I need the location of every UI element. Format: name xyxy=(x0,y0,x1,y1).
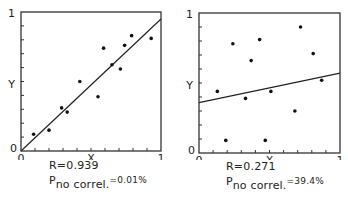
regression-line xyxy=(199,73,340,102)
data-point xyxy=(293,109,297,113)
y-tick-label-0: 0 xyxy=(10,142,17,155)
data-point xyxy=(60,106,64,110)
data-point xyxy=(311,52,315,56)
data-point xyxy=(65,110,69,114)
data-point xyxy=(216,90,220,94)
regression-line xyxy=(21,19,161,151)
y-axis-label: Y xyxy=(185,79,193,92)
data-point xyxy=(224,139,228,143)
p-value-left: Pno correl.=0.01% xyxy=(49,174,147,187)
data-point xyxy=(130,34,134,38)
plot-frame xyxy=(21,12,161,151)
data-point xyxy=(123,44,127,48)
data-point xyxy=(110,63,114,67)
p-value-text-left: =0.01% xyxy=(110,175,147,185)
y-tick-label-0: 0 xyxy=(188,144,195,157)
data-point xyxy=(244,97,248,101)
data-point xyxy=(78,80,82,84)
y-axis-label: Y xyxy=(7,78,15,91)
plot-frame xyxy=(199,13,340,153)
p-prefix-right: P xyxy=(226,175,233,188)
p-value-text-right: =39.4% xyxy=(287,176,324,186)
y-tick-label-1: 1 xyxy=(8,7,15,20)
data-point xyxy=(96,95,100,99)
data-point xyxy=(231,42,235,46)
data-point xyxy=(102,46,106,50)
correlation-r-left: R=0.939 xyxy=(49,159,99,172)
data-point xyxy=(263,139,267,143)
p-subscript-left: no correl. xyxy=(56,178,110,191)
scatter-plot-left: 10Y0X1 xyxy=(0,0,174,160)
data-point xyxy=(47,128,51,132)
x-tick-label-1: 1 xyxy=(158,152,165,160)
data-point xyxy=(32,133,36,137)
data-point xyxy=(258,38,262,42)
data-point xyxy=(249,59,253,63)
p-prefix-left: P xyxy=(49,174,56,187)
data-point xyxy=(149,37,153,41)
scatter-panel-left: 10Y0X1 R=0.939 Pno correl.=0.01% xyxy=(0,0,174,199)
correlation-r-right: R=0.271 xyxy=(226,160,276,173)
p-value-right: Pno correl.=39.4% xyxy=(226,175,324,188)
x-tick-label-0: 0 xyxy=(18,152,25,160)
data-point xyxy=(299,25,303,29)
p-subscript-right: no correl. xyxy=(233,179,287,192)
x-tick-label-0: 0 xyxy=(196,154,203,160)
data-point xyxy=(269,90,273,94)
data-point xyxy=(119,67,123,71)
data-point xyxy=(320,78,324,82)
y-tick-label-1: 1 xyxy=(186,8,193,21)
scatter-panel-right: 10Y0X1 R=0.271 Pno correl.=39.4% xyxy=(174,0,348,199)
scatter-plot-right: 10Y0X1 xyxy=(174,0,348,160)
x-tick-label-1: 1 xyxy=(337,154,344,160)
